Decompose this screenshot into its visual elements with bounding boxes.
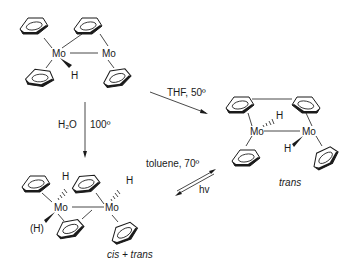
arrow-equilibrium: toluene, 70º hv — [146, 158, 216, 196]
reaction-temperature: 100º — [90, 119, 111, 130]
hydride-label: H — [71, 70, 78, 81]
cyclopentadienyl-ring-icon — [20, 18, 48, 34]
compound-caption-cis-trans: cis + trans — [107, 249, 153, 260]
hydride-label: H — [62, 171, 69, 182]
metal-atom-label: Mo — [54, 202, 68, 213]
wedge-bond — [60, 58, 72, 68]
hydride-label-optional: (H) — [30, 223, 44, 234]
reaction-scheme: Mo Mo H THF, 50º H₂O 100º Mo — [0, 0, 354, 272]
cyclopentadienyl-ring-icon — [102, 68, 132, 88]
metal-atom-label: Mo — [102, 48, 116, 59]
compound-caption-trans: trans — [279, 177, 301, 188]
product-trans: Mo Mo H H trans — [226, 97, 341, 188]
cyclopentadienyl-ring-icon — [71, 175, 100, 193]
cyclopentadienyl-ring-icon — [55, 219, 85, 240]
cyclopentadienyl-ring-icon — [108, 221, 140, 246]
wedge-bond — [292, 136, 303, 147]
hydride-label: H — [284, 143, 291, 154]
product-cis-trans: Mo Mo H H (H) cis + trans — [22, 171, 153, 260]
metal-atom-label: Mo — [52, 48, 66, 59]
cyclopentadienyl-ring-icon — [292, 97, 320, 113]
metal-atom-label: Mo — [302, 126, 316, 137]
cyclopentadienyl-ring-icon — [22, 176, 50, 192]
arrowhead-icon — [209, 169, 216, 174]
metal-atom-label: Mo — [250, 126, 264, 137]
cyclopentadienyl-ring-icon — [309, 145, 341, 171]
metal-atom-label: Mo — [105, 202, 119, 213]
wedge-bond — [44, 212, 55, 223]
reaction-conditions-toluene: toluene, 70º — [146, 158, 199, 169]
reaction-conditions-hv: hv — [199, 184, 210, 195]
reagent-water: H₂O — [58, 119, 77, 130]
hydride-label: H — [276, 110, 283, 121]
hashed-wedge-bond — [58, 189, 67, 200]
arrowhead-icon — [200, 109, 208, 114]
arrowhead-icon — [83, 151, 87, 158]
hydride-label: H — [126, 175, 133, 186]
cyclopentadienyl-ring-icon — [226, 97, 254, 113]
cyclopentadienyl-ring-icon — [74, 18, 102, 34]
reaction-conditions-thf: THF, 50º — [167, 87, 206, 98]
hashed-wedge-bond — [111, 190, 120, 201]
cyclopentadienyl-ring-icon — [25, 68, 55, 88]
hashed-wedge-bond — [263, 119, 274, 127]
start-compound: Mo Mo H — [20, 18, 132, 88]
arrow-thf: THF, 50º — [150, 87, 208, 114]
arrowhead-icon — [175, 191, 182, 196]
cyclopentadienyl-ring-icon — [232, 150, 260, 166]
arrow-water: H₂O 100º — [58, 102, 111, 158]
